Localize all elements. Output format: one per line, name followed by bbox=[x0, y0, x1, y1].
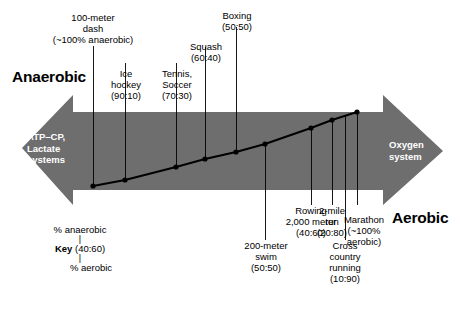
data-point-boxing bbox=[233, 149, 238, 154]
data-point-squash bbox=[202, 156, 207, 161]
data-point-rowing bbox=[308, 125, 313, 130]
key-bottom-label: % aerobic bbox=[10, 262, 150, 273]
page-title-anaerobic: Anaerobic bbox=[12, 68, 86, 86]
arrow-label-oxygen-system: Oxygen system bbox=[389, 139, 424, 162]
label-boxing: Boxing (50:50) bbox=[206, 10, 268, 32]
data-point-marathon bbox=[354, 109, 359, 114]
data-point-tennis-soccer bbox=[173, 164, 178, 169]
key-tick-bottom: | bbox=[10, 254, 150, 262]
data-point-two-mile-run bbox=[329, 117, 334, 122]
continuum-trend-line bbox=[93, 112, 357, 186]
label-tennis-soccer: Tennis, Soccer (70:30) bbox=[146, 68, 208, 101]
data-point-ice-hockey bbox=[122, 177, 127, 182]
key-title: Key bbox=[55, 243, 72, 254]
data-point-hundred-meter-dash bbox=[90, 183, 95, 188]
key-tick-top: | bbox=[10, 235, 150, 243]
data-point-two-hundred-meter-swim bbox=[262, 141, 267, 146]
label-hundred-meter-dash: 100-meter dash (~100% anaerobic) bbox=[33, 12, 153, 45]
label-marathon: Marathon (~100% aerobic) bbox=[330, 214, 398, 247]
data-point-group bbox=[90, 109, 359, 188]
key-legend: % anaerobic | Key (40:60) | % aerobic bbox=[10, 224, 150, 273]
label-squash: Squash (60:40) bbox=[175, 41, 237, 63]
arrow-label-atp-cp-lactate: ATP–CP, Lactate systems bbox=[27, 131, 65, 166]
page-title-aerobic: Aerobic bbox=[392, 209, 448, 227]
energy-continuum-diagram: Anaerobic Aerobic ATP–CP, Lactate system… bbox=[0, 0, 460, 320]
